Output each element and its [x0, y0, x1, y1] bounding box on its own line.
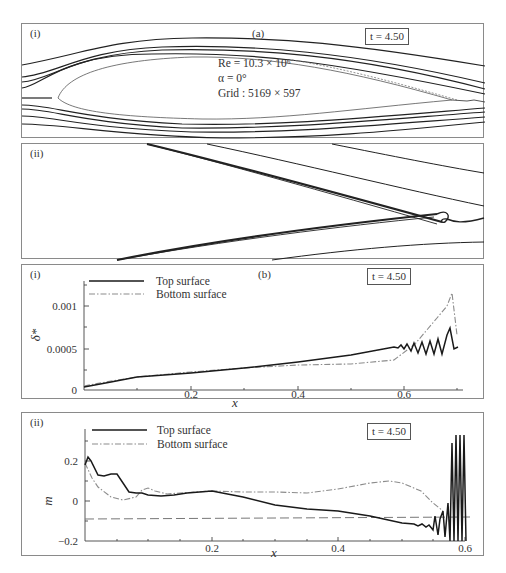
m-chart: −0.2 0 0.2 0.2 0.4 0.6 x m Top surface B… [22, 413, 485, 557]
ytick: −0.2 [58, 535, 78, 547]
delta-star-chart: 0 0.0005 0.001 0.2 0.4 0.6 x δ* Top surf… [22, 265, 485, 400]
legend-bottom-surface: Bottom surface [157, 438, 228, 450]
x-axis-label: x [231, 395, 238, 410]
legend-top-surface: Top surface [157, 424, 211, 437]
bottom-surface-line [84, 293, 457, 386]
bottom-surface-line [85, 463, 443, 511]
simulation-info: Re = 10.3 × 10⁶ α = 0° Grid : 5169 × 597 [218, 56, 301, 101]
x-axis-label: x [270, 545, 277, 560]
top-surface-line [84, 328, 458, 387]
angle-of-attack: α = 0° [218, 71, 301, 86]
top-surface-line [85, 435, 466, 541]
legend-top-surface: Top surface [156, 275, 210, 288]
reynolds-number: Re = 10.3 × 10⁶ [218, 56, 301, 71]
panel-b-ii-m-parameter: (ii) t = 4.50 −0.2 0 0.2 0.2 [21, 412, 484, 556]
panel-a-i-streamlines: (i) (a) t = 4.50 Re = 10.3 × 10⁶ α = 0° … [21, 23, 484, 138]
xtick: 0.4 [331, 542, 345, 554]
y-axis-label: m [40, 496, 55, 505]
xtick: 0.4 [291, 388, 305, 400]
grid-size: Grid : 5169 × 597 [218, 86, 301, 101]
ytick: 0.2 [64, 455, 78, 467]
legend-bottom-surface: Bottom surface [156, 288, 227, 300]
panel-a-ii-trailing-edge: (ii) [21, 143, 484, 259]
xtick: 0.2 [184, 388, 198, 400]
xtick: 0.6 [397, 388, 411, 400]
panel-b-i-displacement-thickness: (i) (b) t = 4.50 0 0.0005 0.001 0.2 0.4 … [21, 264, 484, 399]
ytick: 0.0005 [47, 343, 78, 355]
ytick: 0 [73, 495, 79, 507]
y-axis-label: δ* [28, 328, 43, 341]
ytick: 0.001 [52, 300, 77, 312]
xtick: 0.2 [205, 542, 219, 554]
xtick: 0.6 [458, 542, 472, 554]
trailing-edge-plot [22, 144, 485, 260]
ytick: 0 [72, 384, 78, 396]
reference-dashed-line [85, 517, 470, 519]
